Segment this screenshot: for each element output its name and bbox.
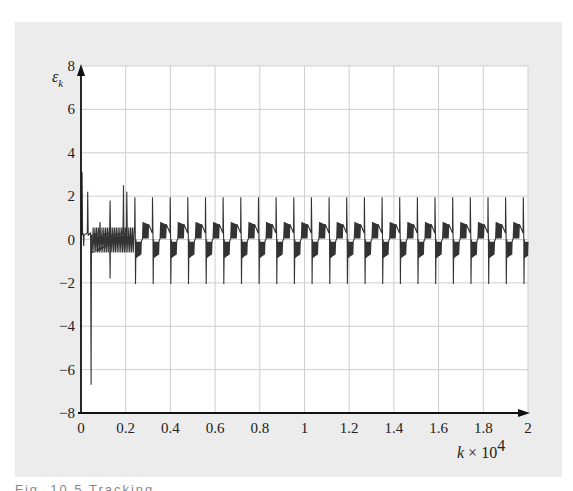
x-tick-label: 0.6	[206, 420, 225, 436]
y-tick-label: −2	[59, 275, 75, 291]
y-axis-label: εk	[52, 68, 64, 89]
y-tick-label: 6	[68, 101, 76, 117]
x-axis-label: k × 104	[457, 437, 505, 461]
x-tick-labels: 00.20.40.60.811.21.41.61.82	[77, 420, 532, 436]
x-tick-label: 1	[301, 420, 309, 436]
y-tick-label: −6	[59, 362, 75, 378]
x-tick-label: 0.4	[161, 420, 180, 436]
x-tick-label: 1.6	[429, 420, 448, 436]
x-tick-label: 0.2	[116, 420, 135, 436]
x-tick-label: 1.2	[340, 420, 359, 436]
x-tick-label: 0	[77, 420, 85, 436]
figure-caption: Fig. 10.5 Tracking error	[15, 483, 195, 491]
y-tick-label: 0	[68, 232, 76, 248]
y-tick-labels: −8−6−4−202468	[59, 58, 75, 421]
x-tick-label: 1.8	[474, 420, 493, 436]
x-tick-label: 0.8	[250, 420, 269, 436]
y-tick-label: −8	[59, 405, 75, 421]
y-tick-label: 4	[68, 145, 76, 161]
x-tick-label: 1.4	[385, 420, 404, 436]
y-tick-label: −4	[59, 318, 75, 334]
line-chart: 00.20.40.60.811.21.41.61.82 −8−6−4−20246…	[0, 0, 573, 491]
x-tick-label: 2	[524, 420, 532, 436]
y-tick-label: 8	[68, 58, 76, 74]
y-tick-label: 2	[68, 188, 76, 204]
